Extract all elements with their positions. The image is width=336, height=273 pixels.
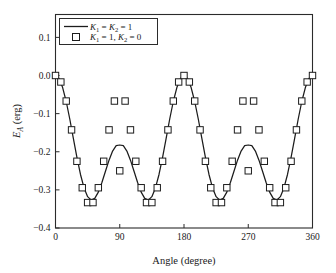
data-point-marker: [299, 98, 305, 104]
data-point-marker: [159, 158, 165, 164]
x-tick-label: 180: [177, 232, 192, 242]
legend-label-series-1: K1​ = K2​ = 1: [89, 22, 132, 33]
data-point-marker: [154, 185, 160, 191]
data-point-marker: [122, 98, 128, 104]
data-point-marker: [197, 127, 203, 133]
data-point-marker: [245, 168, 251, 174]
legend: K1​ = K2​ = 1 K1​ = 1, K2​ = 0: [60, 19, 158, 45]
x-tick-label: 360: [305, 232, 320, 242]
x-axis-label: Angle (degree): [152, 255, 216, 267]
data-point-marker: [202, 158, 208, 164]
y-tick-label: 0.0: [39, 71, 51, 81]
y-tick-label: −0.1: [33, 109, 50, 119]
data-point-marker: [165, 127, 171, 133]
data-point-marker: [63, 98, 69, 104]
data-point-marker: [52, 72, 58, 78]
data-point-marker: [68, 127, 74, 133]
y-tick-label: −0.4: [33, 223, 50, 233]
data-point-marker: [208, 185, 214, 191]
data-point-marker: [229, 158, 235, 164]
data-point-marker: [261, 158, 267, 164]
data-point-marker: [277, 199, 283, 205]
legend-square-swatch: [73, 34, 80, 41]
data-point-marker: [138, 185, 144, 191]
data-point-marker: [218, 199, 224, 205]
data-point-marker: [186, 79, 192, 85]
data-point-marker: [175, 79, 181, 85]
data-point-marker: [149, 199, 155, 205]
y-tick-label: −0.3: [33, 185, 50, 195]
data-point-marker: [250, 98, 256, 104]
y-tick-label: 0.1: [39, 33, 51, 43]
data-point-marker: [170, 98, 176, 104]
data-point-marker: [95, 185, 101, 191]
data-point-marker: [288, 158, 294, 164]
data-point-marker: [100, 158, 106, 164]
y-tick-label: −0.2: [33, 147, 50, 157]
data-point-marker: [74, 158, 80, 164]
data-point-marker: [240, 98, 246, 104]
data-point-marker: [283, 185, 289, 191]
data-point-marker: [234, 127, 240, 133]
anisotropy-energy-chart: 090180270360 0.10.0−0.1−0.2−0.3−0.4 K1​ …: [0, 0, 336, 273]
data-point-marker: [133, 158, 139, 164]
data-point-marker: [293, 127, 299, 133]
data-point-marker: [58, 79, 64, 85]
data-point-marker: [79, 185, 85, 191]
x-tick-label: 270: [241, 232, 256, 242]
x-tick-label: 0: [53, 232, 58, 242]
data-point-marker: [224, 185, 230, 191]
data-point-marker: [111, 98, 117, 104]
data-point-marker: [192, 98, 198, 104]
data-point-marker: [304, 79, 310, 85]
data-point-marker: [106, 127, 112, 133]
data-point-marker: [90, 199, 96, 205]
data-point-marker: [181, 72, 187, 78]
x-tick-label: 90: [115, 232, 125, 242]
data-point-marker: [266, 185, 272, 191]
data-point-marker: [127, 127, 133, 133]
data-point-marker: [256, 127, 262, 133]
data-point-marker: [117, 168, 123, 174]
data-point-marker: [309, 72, 315, 78]
